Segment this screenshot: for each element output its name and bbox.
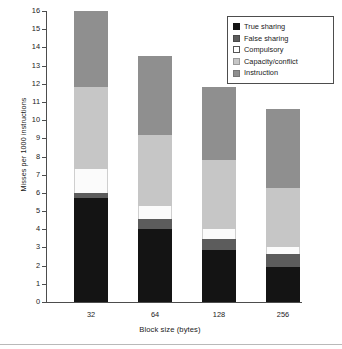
legend-item-capacity-conflict: Capacity/conflict: [233, 56, 329, 68]
bar-segment-256-instruction: [266, 109, 300, 188]
y-tick-mark: [42, 47, 46, 48]
bar-32: [74, 11, 108, 302]
legend-item-compulsory: Compulsory: [233, 44, 329, 56]
y-tick-label: 4: [20, 225, 40, 232]
y-tick-mark: [42, 138, 46, 139]
bar-segment-256-true-sharing: [266, 267, 300, 302]
y-tick-label: 8: [20, 153, 40, 160]
y-tick-label: 9: [20, 134, 40, 141]
legend-label: False sharing: [244, 35, 288, 42]
legend-swatch-icon: [233, 35, 240, 42]
y-tick-label: 14: [20, 43, 40, 50]
legend-swatch-icon: [233, 70, 240, 77]
bar-segment-64-compulsory: [138, 206, 172, 220]
legend-swatch-icon: [233, 58, 240, 65]
y-tick-mark: [42, 284, 46, 285]
bar-segment-32-true-sharing: [74, 198, 108, 302]
y-tick-mark: [42, 157, 46, 158]
y-tick-label: 11: [20, 98, 40, 105]
x-axis-title: Block size (bytes): [40, 325, 300, 334]
legend-swatch-icon: [233, 23, 240, 30]
y-tick-label: 0: [20, 298, 40, 305]
bar-segment-128-compulsory: [202, 229, 236, 239]
x-tick-label-256: 256: [263, 310, 303, 319]
legend-label: Instruction: [244, 69, 278, 76]
bar-64: [138, 11, 172, 302]
x-tick-label-32: 32: [71, 310, 111, 319]
bar-segment-128-true-sharing: [202, 250, 236, 302]
y-tick-label: 13: [20, 62, 40, 69]
y-tick-mark: [42, 11, 46, 12]
bar-segment-64-capacity-conflict: [138, 135, 172, 206]
y-tick-mark: [42, 229, 46, 230]
stacked-bar-chart: Misses per 1000 instructions Block size …: [0, 0, 342, 349]
legend-item-true-sharing: True sharing: [233, 21, 329, 33]
y-tick-label: 6: [20, 189, 40, 196]
bar-segment-128-instruction: [202, 87, 236, 160]
y-tick-mark: [42, 247, 46, 248]
bar-segment-128-false-sharing: [202, 239, 236, 250]
y-tick-mark: [42, 302, 46, 303]
y-tick-label: 15: [20, 25, 40, 32]
y-tick-mark: [42, 175, 46, 176]
y-tick-mark: [42, 211, 46, 212]
y-tick-mark: [42, 29, 46, 30]
chart-legend: True sharingFalse sharingCompulsoryCapac…: [227, 16, 334, 84]
legend-label: True sharing: [244, 23, 285, 30]
legend-item-instruction: Instruction: [233, 67, 329, 79]
y-tick-label: 5: [20, 207, 40, 214]
y-tick-mark: [42, 266, 46, 267]
y-tick-label: 16: [20, 7, 40, 14]
legend-item-false-sharing: False sharing: [233, 33, 329, 45]
bar-segment-128-capacity-conflict: [202, 160, 236, 229]
y-tick-label: 2: [20, 262, 40, 269]
y-tick-label: 1: [20, 280, 40, 287]
y-tick-mark: [42, 120, 46, 121]
y-tick-mark: [42, 66, 46, 67]
bar-segment-32-false-sharing: [74, 193, 108, 198]
footer-rule: [0, 344, 342, 345]
bar-segment-64-false-sharing: [138, 219, 172, 229]
bar-segment-32-compulsory: [74, 169, 108, 193]
bar-segment-256-compulsory: [266, 247, 300, 254]
y-tick-label: 3: [20, 243, 40, 250]
x-axis-line: [46, 302, 302, 303]
y-tick-label: 7: [20, 171, 40, 178]
y-tick-label: 12: [20, 80, 40, 87]
bar-segment-64-true-sharing: [138, 229, 172, 302]
y-tick-mark: [42, 102, 46, 103]
x-tick-label-64: 64: [135, 310, 175, 319]
y-axis-line: [46, 11, 47, 302]
legend-label: Capacity/conflict: [244, 58, 298, 65]
y-tick-label: 10: [20, 116, 40, 123]
bar-segment-64-instruction: [138, 56, 172, 134]
y-tick-mark: [42, 84, 46, 85]
bar-segment-32-instruction: [74, 11, 108, 87]
x-tick-label-128: 128: [199, 310, 239, 319]
bar-segment-256-capacity-conflict: [266, 188, 300, 246]
bar-segment-32-capacity-conflict: [74, 87, 108, 169]
legend-swatch-icon: [233, 46, 240, 53]
bar-segment-256-false-sharing: [266, 254, 300, 268]
legend-label: Compulsory: [244, 46, 283, 53]
y-tick-mark: [42, 193, 46, 194]
